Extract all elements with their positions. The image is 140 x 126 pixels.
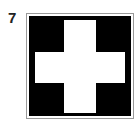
cross-icon-horizontal-bar	[35, 52, 125, 83]
item-number: 7	[8, 10, 16, 25]
